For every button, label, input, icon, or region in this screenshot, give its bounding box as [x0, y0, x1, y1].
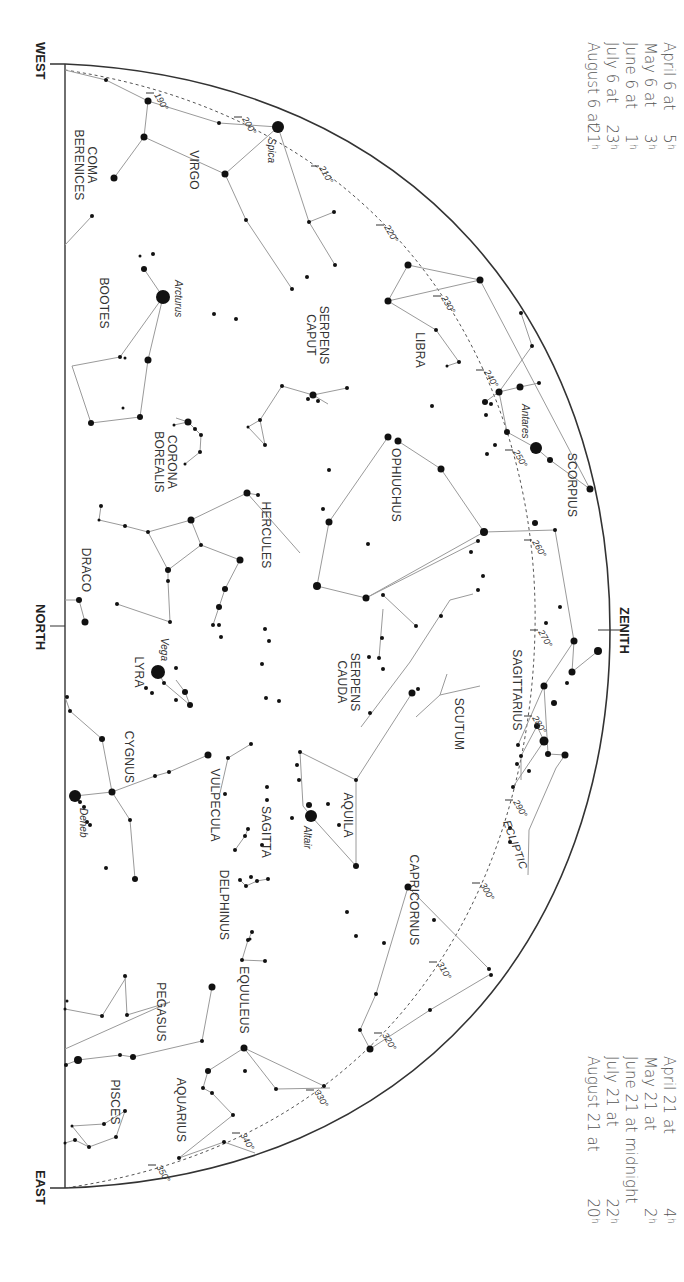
ecliptic-degree-label: 260°: [530, 537, 549, 559]
star-icon: [540, 737, 549, 746]
time-row: May 21 at2h: [641, 1056, 659, 1224]
direction-zenith: ZENITH: [617, 607, 632, 654]
bright-star-icon: [151, 665, 165, 679]
star-icon: [64, 1063, 68, 1067]
star-icon: [165, 567, 171, 573]
svg-text:BERENICES: BERENICES: [72, 129, 86, 200]
svg-text:CAPRICORNUS: CAPRICORNUS: [407, 855, 421, 946]
star-icon: [244, 490, 251, 497]
star-icon: [132, 876, 138, 882]
svg-text:SAGITTARIUS: SAGITTARIUS: [510, 649, 524, 730]
star-icon: [469, 550, 473, 554]
star-icon: [527, 769, 531, 773]
time-row: June 21 at midnight: [622, 1056, 640, 1204]
star-icon: [496, 389, 503, 396]
star-icon: [321, 507, 325, 511]
star-icon: [234, 317, 238, 321]
constellation-label: EQUULEUS: [237, 966, 251, 1034]
star-icon: [519, 311, 523, 315]
constellation-label: CAPRICORNUS: [407, 855, 421, 946]
ecliptic-degree-label: 290°: [511, 797, 530, 819]
constellation-label: DRACO: [79, 548, 93, 592]
svg-text:June 6 at: June 6 at: [622, 42, 640, 109]
svg-text:BOOTES: BOOTES: [97, 277, 111, 328]
star-icon: [216, 604, 222, 610]
star-icon: [326, 802, 330, 806]
star-icon: [569, 669, 576, 676]
star-icon: [188, 517, 195, 524]
time-row: August 6 at21h: [584, 42, 602, 150]
star-icon: [122, 407, 125, 410]
ecliptic-degree-label: 320°: [380, 1031, 398, 1052]
svg-text:July 21 at: July 21 at: [603, 1056, 621, 1127]
ecliptic-degree-markers: 190°200°210°220°230°240°250°260°270°280°…: [146, 91, 554, 1184]
star-icon: [333, 263, 337, 267]
star-icon: [249, 742, 253, 746]
svg-text:May 6 at: May 6 at: [641, 42, 659, 107]
star-icon: [167, 770, 171, 774]
time-row: April 21 at4h: [660, 1056, 678, 1224]
svg-text:CORONA: CORONA: [165, 435, 179, 489]
star-icon: [363, 595, 370, 602]
star-icon: [485, 452, 489, 456]
star-icon: [297, 778, 301, 782]
svg-text:5h: 5h: [660, 134, 678, 150]
bright-star-icon: [530, 442, 542, 454]
star-icon: [205, 752, 212, 759]
star-icon: [515, 762, 519, 766]
star-icon: [345, 910, 349, 914]
star-icon: [298, 750, 302, 754]
star-name-label: Spica: [266, 138, 277, 163]
svg-text:2h: 2h: [641, 1208, 659, 1224]
star-icon: [265, 785, 269, 789]
svg-text:OPHIUCHUS: OPHIUCHUS: [389, 448, 403, 522]
star-icon: [243, 834, 247, 838]
svg-text:AQUARIUS: AQUARIUS: [174, 1078, 188, 1142]
direction-west: WEST: [33, 42, 48, 80]
star-icon: [247, 426, 250, 429]
star-icon: [377, 656, 381, 660]
star-icon: [174, 698, 178, 702]
star-icon: [263, 443, 267, 447]
star-icon: [153, 774, 157, 778]
constellation-label: BOOTES: [97, 277, 111, 328]
constellation-label: LYRA: [132, 656, 146, 687]
svg-text:1h: 1h: [622, 134, 640, 150]
star-icon: [434, 328, 438, 332]
star-icon: [244, 218, 248, 222]
svg-text:CAPUT: CAPUT: [304, 314, 318, 356]
star-icon: [226, 756, 230, 760]
star-icon: [177, 1156, 181, 1160]
svg-text:AQUILA: AQUILA: [341, 792, 355, 837]
star-icon: [482, 399, 488, 405]
star-icon: [162, 681, 166, 685]
star-icon: [332, 210, 336, 214]
star-icon: [551, 700, 557, 706]
star-icon: [98, 519, 101, 522]
star-icon: [265, 798, 269, 802]
star-icon: [504, 429, 510, 435]
star-icon: [199, 433, 203, 437]
star-icon: [306, 802, 312, 808]
star-icon: [353, 863, 359, 869]
star-icon: [118, 355, 122, 359]
star-icon: [64, 1008, 67, 1011]
star-icon: [223, 792, 227, 796]
ecliptic-label: ECLIPTIC: [501, 819, 530, 871]
constellation-label: SCUTUM: [452, 698, 466, 751]
star-icon: [114, 1135, 118, 1139]
constellation-label: SERPENSCAUDA: [335, 653, 362, 712]
constellation-label: LIBRA: [413, 332, 427, 368]
star-icon: [200, 1039, 204, 1043]
svg-text:4h: 4h: [660, 1208, 678, 1224]
constellation-label: PEGASUS: [154, 982, 168, 1041]
star-icon: [537, 381, 541, 385]
constellation-label: SAGITTARIUS: [510, 649, 524, 730]
constellation-label: COMABERENICES: [72, 129, 99, 200]
star-icon: [565, 681, 569, 685]
star-icon: [489, 973, 493, 977]
star-icon: [380, 636, 384, 640]
ecliptic-degree-label: 190°: [152, 91, 170, 112]
star-icon: [310, 392, 317, 399]
star-icon: [241, 1045, 248, 1052]
